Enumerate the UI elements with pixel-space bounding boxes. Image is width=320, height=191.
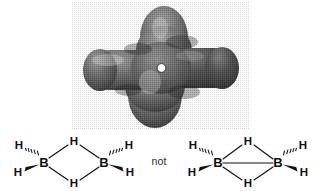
bond-b-left-to-bridging-h-bottom — [223, 167, 242, 180]
bond-b-left-to-terminal-h-lower-left — [25, 165, 40, 172]
diborane-structure-correct: B B H H H H H H — [4, 134, 144, 191]
atom-label-boron-left: B — [213, 155, 222, 170]
bond-b-right-to-terminal-h-lower-right — [109, 165, 124, 172]
bond-b-right-to-bridging-h-top — [80, 145, 99, 158]
bond-b-left-to-bridging-h-top — [223, 145, 242, 159]
atom-label-terminal-h-upper-right: H — [299, 139, 307, 151]
bond-b-left-to-bridging-h-top — [49, 145, 68, 158]
atom-label-terminal-h-lower-right: H — [300, 166, 308, 178]
bond-b-right-to-bridging-h-bottom — [254, 167, 273, 180]
figure-root: B B H H H H H H not — [0, 0, 320, 191]
atom-label-bridging-h-bottom: H — [70, 177, 78, 189]
diborane-electron-density-surface — [72, 2, 250, 130]
atom-label-boron-left: B — [39, 155, 48, 170]
bond-b-right-to-bridging-h-top — [254, 145, 273, 159]
atom-label-terminal-h-lower-left: H — [14, 166, 22, 178]
atom-label-terminal-h-upper-left: H — [15, 139, 23, 151]
atom-label-bridging-h-top: H — [244, 135, 252, 147]
bond-b-right-to-terminal-h-upper-right — [283, 148, 296, 156]
bond-b-left-to-bridging-h-bottom — [49, 167, 68, 180]
bond-b-right-to-bridging-h-bottom — [80, 167, 99, 180]
orbital-center-hole — [157, 64, 166, 73]
atom-label-terminal-h-upper-left: H — [189, 139, 197, 151]
bond-b-right-to-terminal-h-upper-right — [109, 148, 122, 156]
atom-label-terminal-h-lower-left: H — [188, 166, 196, 178]
bond-b-left-to-terminal-h-lower-left — [199, 165, 214, 172]
atom-label-bridging-h-top: H — [70, 135, 78, 147]
bond-b-left-to-terminal-h-upper-left — [26, 148, 39, 156]
atom-label-boron-right: B — [273, 155, 282, 170]
not-connector-label: not — [140, 155, 178, 167]
diborane-structure-incorrect: B B H H H H H H — [178, 134, 318, 191]
bond-b-right-to-terminal-h-lower-right — [283, 165, 298, 172]
atom-label-bridging-h-bottom: H — [244, 177, 252, 189]
atom-label-boron-right: B — [99, 155, 108, 170]
atom-label-terminal-h-upper-right: H — [125, 139, 133, 151]
bond-b-left-to-terminal-h-upper-left — [200, 148, 213, 156]
atom-label-terminal-h-lower-right: H — [126, 166, 134, 178]
